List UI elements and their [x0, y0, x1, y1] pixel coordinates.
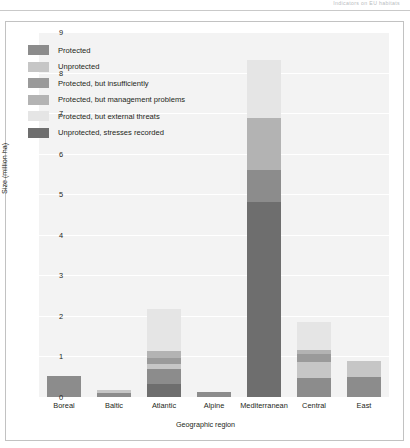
legend-swatch	[28, 111, 49, 121]
bar-segment[interactable]	[197, 392, 231, 397]
bar-segment[interactable]	[247, 60, 281, 118]
legend-item[interactable]: Unprotected	[28, 59, 238, 76]
figure-frame: 0123456789 Size (million ha) BorealBalti…	[5, 21, 404, 441]
page-header: Indicators on EU habitats	[0, 0, 410, 14]
x-axis-tick-label: Alpine	[204, 401, 225, 410]
bar-segment[interactable]	[297, 362, 331, 378]
legend-swatch	[28, 128, 49, 138]
x-axis-tick-label: Mediterranean	[240, 401, 288, 410]
y-axis-tick-label: 1	[37, 352, 63, 361]
legend-label: Protected, but insufficiently	[58, 79, 149, 88]
bar-segment[interactable]	[297, 322, 331, 350]
bar-segment[interactable]	[147, 351, 181, 358]
bar-stack	[97, 390, 131, 397]
legend-item[interactable]: Unprotected, stresses recorded	[28, 125, 238, 142]
legend-swatch	[28, 95, 49, 105]
bar-segment[interactable]	[347, 377, 381, 397]
bar-segment[interactable]	[147, 384, 181, 397]
bar-stack	[347, 361, 381, 397]
legend-label: Unprotected, stresses recorded	[58, 128, 164, 137]
bar-segment[interactable]	[297, 378, 331, 397]
header-divider	[0, 10, 410, 11]
legend-item[interactable]: Protected	[28, 42, 238, 59]
bar-stack	[147, 309, 181, 397]
y-axis-tick-label: 6	[37, 149, 63, 158]
header-running-title: Indicators on EU habitats	[333, 0, 400, 6]
bar-stack	[197, 392, 231, 397]
y-axis-tick-label: 5	[37, 190, 63, 199]
legend-swatch	[28, 78, 49, 88]
legend-item[interactable]: Protected, but insufficiently	[28, 75, 238, 92]
bar-segment[interactable]	[97, 393, 131, 397]
bar-segment[interactable]	[247, 202, 281, 397]
bar-segment[interactable]	[247, 170, 281, 202]
bar-group[interactable]	[247, 32, 281, 397]
x-axis-tick-label: Baltic	[105, 401, 123, 410]
y-axis-tick-label: 9	[37, 28, 63, 37]
chart-legend: ProtectedUnprotectedProtected, but insuf…	[28, 42, 238, 141]
legend-label: Protected, but management problems	[58, 95, 185, 104]
bar-segment[interactable]	[347, 361, 381, 377]
bar-stack	[297, 322, 331, 397]
bar-segment[interactable]	[247, 118, 281, 170]
x-axis-tick-label: East	[357, 401, 372, 410]
legend-label: Protected, but external threats	[58, 112, 160, 121]
bar-segment[interactable]	[147, 369, 181, 383]
x-axis-tick-label: Atlantic	[152, 401, 176, 410]
bar-segment[interactable]	[297, 354, 331, 362]
legend-item[interactable]: Protected, but external threats	[28, 108, 238, 125]
bar-stack	[247, 60, 281, 397]
bar-segment[interactable]	[147, 309, 181, 352]
legend-item[interactable]: Protected, but management problems	[28, 92, 238, 109]
legend-swatch	[28, 62, 49, 72]
y-axis-tick-label: 3	[37, 271, 63, 280]
legend-swatch	[28, 45, 49, 55]
legend-label: Protected	[58, 46, 91, 55]
y-axis-tick-label: 2	[37, 311, 63, 320]
x-axis-tick-label: Boreal	[53, 401, 74, 410]
y-axis-title: Size (million ha)	[0, 143, 9, 194]
bar-group[interactable]	[347, 32, 381, 397]
x-axis-tick-label: Central	[302, 401, 326, 410]
legend-label: Unprotected	[58, 62, 99, 71]
x-axis-title: Geographic region	[6, 420, 405, 429]
bar-group[interactable]	[297, 32, 331, 397]
y-axis-tick-label: 4	[37, 230, 63, 239]
